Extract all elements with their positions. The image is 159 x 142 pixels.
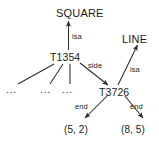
node-point-left: (5, 2) xyxy=(64,125,88,135)
edge-label-end-left: end xyxy=(75,103,88,111)
edge-end-left xyxy=(85,96,107,118)
edge-label-end-right: end xyxy=(130,103,143,111)
node-square: SQUARE xyxy=(56,8,104,19)
node-line: LINE xyxy=(122,34,147,45)
edge-label-side: side xyxy=(88,62,102,70)
edge-label-isa-square: isa xyxy=(72,33,82,41)
node-ellipsis-1: ... xyxy=(6,84,17,95)
node-t1354: T1354 xyxy=(50,52,80,63)
node-point-right: (8, 5) xyxy=(121,125,145,135)
edge-label-isa-line: isa xyxy=(130,66,140,74)
edge-to-ellipsis-2 xyxy=(50,64,63,84)
semantic-network-diagram: SQUARE --> T3726 --> LINE --> (5, 2) -->… xyxy=(0,0,159,142)
node-t3726: T3726 xyxy=(99,87,129,98)
node-ellipsis-2: ... xyxy=(40,84,51,95)
node-ellipsis-3: ... xyxy=(62,84,73,95)
edge-to-ellipsis-1 xyxy=(18,64,54,84)
